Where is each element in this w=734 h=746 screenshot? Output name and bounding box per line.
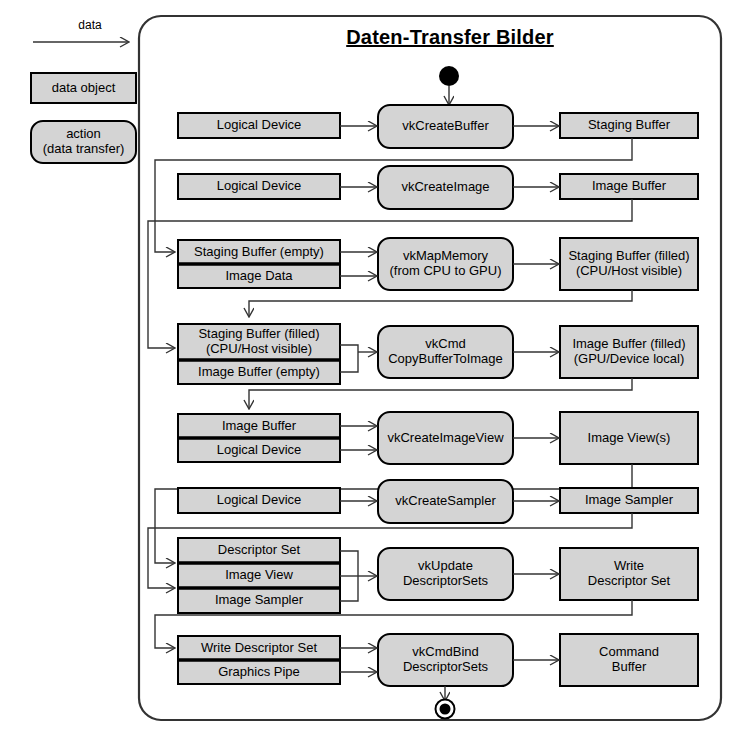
row-create-buffer-shapes [178,105,698,148]
row-create-image-shapes [178,166,698,209]
legend-action-box [31,121,136,163]
diagram-svg [0,0,734,746]
row-create-sampler-shapes [178,480,698,523]
end-node-icon [436,700,455,719]
row-map-memory-shapes [178,238,698,290]
start-node-icon [439,66,459,86]
row-copy-buffer-shapes [178,324,698,384]
diagram-canvas: data data object action (data transfer) … [0,0,734,746]
legend-data-object-box [31,73,136,103]
row-update-descriptor-shapes [178,538,698,613]
row-bind-descriptor-shapes [178,634,698,686]
row-create-image-view-shapes [178,412,698,464]
edge-staging-filled-to-copybuffer [249,290,632,316]
